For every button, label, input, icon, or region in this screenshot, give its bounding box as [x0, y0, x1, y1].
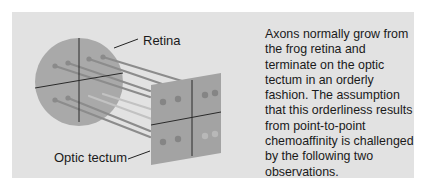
optic-tectum-label: Optic tectum: [54, 150, 127, 165]
caption-line: from point-to-point: [265, 119, 415, 134]
caption-line: tectum in an orderly: [265, 73, 415, 88]
caption-line: fashion. The assumption: [265, 88, 415, 103]
caption-line: by the following two: [265, 149, 415, 164]
caption-line: the frog retina and: [265, 42, 415, 57]
retina-leader-line: [114, 39, 138, 48]
tectum-leader-line: [128, 151, 150, 159]
retina-label: Retina: [143, 33, 181, 48]
caption-line: chemoaffinity is challenged: [265, 134, 415, 149]
figure-caption: Axons normally grow from the frog retina…: [265, 27, 415, 180]
caption-line: terminate on the optic: [265, 58, 415, 73]
caption-line: observations.: [265, 165, 415, 180]
caption-line: Axons normally grow from: [265, 27, 415, 42]
caption-line: that this orderliness results: [265, 103, 415, 118]
